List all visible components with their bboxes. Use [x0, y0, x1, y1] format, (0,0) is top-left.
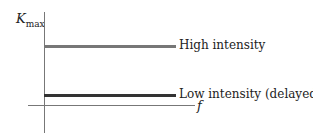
series-label-high-intensity: High intensity [179, 38, 265, 52]
series-line-low-intensity [44, 94, 176, 97]
series-line-high-intensity [44, 45, 176, 48]
y-axis [44, 12, 45, 133]
x-axis-label: f [197, 98, 202, 113]
x-axis [28, 105, 195, 106]
y-axis-label: Kmax [16, 11, 45, 29]
